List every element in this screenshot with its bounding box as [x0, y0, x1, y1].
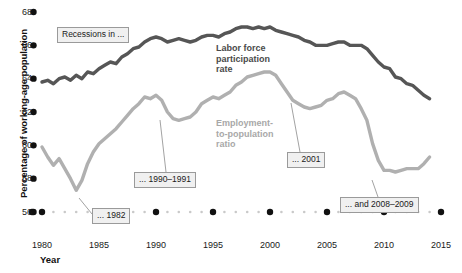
- x-axis-minor-tick-dot-1992: [178, 211, 181, 214]
- x-axis-minor-tick-dot-2003: [303, 211, 306, 214]
- x-axis-major-tick-dot-2000: [267, 209, 273, 215]
- y-tick-label-64: 64: [14, 73, 32, 83]
- x-tick-label-2015: 2015: [421, 240, 461, 250]
- series-label-labor-force-participation-rate: Labor force participation rate: [216, 43, 270, 75]
- y-tick-label-68: 68: [14, 7, 32, 17]
- callout-recession-2008-2009: ... and 2008–2009: [340, 197, 419, 213]
- y-tick-label-56: 56: [14, 207, 32, 217]
- x-axis-minor-tick-dot-2002: [292, 211, 295, 214]
- x-tick-label-1980: 1980: [22, 240, 62, 250]
- y-tick-label-62: 62: [14, 107, 32, 117]
- callout-recession-1982: ... 1982: [92, 208, 130, 224]
- x-axis-minor-tick-dot-2001: [280, 211, 283, 214]
- x-axis-minor-tick-dot-1984: [86, 211, 89, 214]
- leader-line-1982: [79, 198, 92, 214]
- leader-line-1990-1991: [160, 120, 166, 172]
- x-axis-minor-tick-dot-1982: [64, 211, 67, 214]
- y-tick-label-60: 60: [14, 140, 32, 150]
- x-axis-major-tick-dot-1980: [39, 209, 45, 215]
- x-axis-major-tick-dot-2005: [324, 209, 330, 215]
- x-axis-minor-tick-dot-1983: [75, 211, 78, 214]
- x-tick-label-1985: 1985: [79, 240, 119, 250]
- x-axis-minor-tick-dot-2014: [428, 211, 431, 214]
- x-tick-label-2000: 2000: [250, 240, 290, 250]
- x-axis-minor-tick-dot-1999: [257, 211, 260, 214]
- callout-recession-2001: ... 2001: [287, 152, 325, 168]
- x-axis-minor-tick-dot-1996: [223, 211, 226, 214]
- x-axis-minor-tick-dot-1993: [189, 211, 192, 214]
- chart-container: Percentage of working-age population Yea…: [0, 0, 462, 273]
- x-axis-minor-tick-dot-1988: [132, 211, 135, 214]
- x-axis-minor-tick-dot-1997: [235, 211, 238, 214]
- callout-recession-1990-1991: ... 1990–1991: [134, 172, 196, 188]
- x-axis-minor-tick-dot-1981: [52, 211, 55, 214]
- x-tick-label-1995: 1995: [193, 240, 233, 250]
- x-tick-label-1990: 1990: [136, 240, 176, 250]
- x-tick-label-2010: 2010: [364, 240, 404, 250]
- x-axis-major-tick-dot-1990: [153, 209, 159, 215]
- x-tick-label-2005: 2005: [307, 240, 347, 250]
- x-axis-minor-tick-dot-1991: [166, 211, 169, 214]
- x-axis-minor-tick-dot-1994: [200, 211, 203, 214]
- x-axis-major-tick-dot-2015: [438, 209, 444, 215]
- x-axis-minor-tick-dot-2004: [314, 211, 317, 214]
- x-axis-minor-tick-dot-1998: [246, 211, 249, 214]
- callout-recessions: Recessions in ...: [57, 27, 129, 43]
- x-axis-major-tick-dot-1995: [210, 209, 216, 215]
- leader-line-2001: [291, 103, 300, 152]
- y-tick-label-58: 58: [14, 173, 32, 183]
- x-axis-minor-tick-dot-1989: [143, 211, 146, 214]
- y-tick-label-66: 66: [14, 40, 32, 50]
- series-label-employment-to-population-ratio: Employment- to-population ratio: [216, 118, 273, 150]
- leader-line-2008-2009: [372, 180, 378, 197]
- x-axis-title: Year: [40, 254, 60, 265]
